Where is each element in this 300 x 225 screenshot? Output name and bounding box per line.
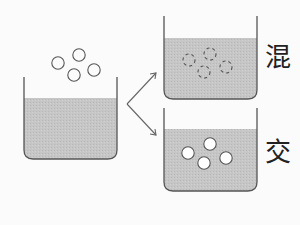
mixed-beaker	[164, 16, 257, 99]
liquid-fill	[164, 38, 257, 99]
particle	[198, 157, 210, 169]
arrow-up	[127, 73, 156, 104]
particle	[52, 57, 64, 69]
label-cross: 交	[265, 139, 291, 165]
source-beaker	[24, 77, 117, 159]
particle	[182, 147, 194, 159]
falling-particles	[52, 49, 100, 81]
particle	[68, 69, 80, 81]
particle	[204, 138, 216, 150]
branch-arrows	[127, 73, 156, 135]
particle	[88, 64, 100, 76]
liquid-fill	[24, 98, 117, 159]
label-mixed: 混	[265, 44, 291, 70]
diagram-canvas	[0, 0, 300, 225]
particle	[73, 49, 85, 61]
particle	[220, 152, 232, 164]
arrow-down	[127, 104, 156, 135]
